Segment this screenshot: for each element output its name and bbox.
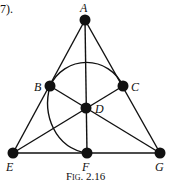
line-CE [13, 86, 123, 153]
label-B: B [34, 81, 41, 93]
label-C: C [131, 81, 139, 93]
label-A: A [80, 2, 87, 14]
point-G [155, 148, 166, 159]
point-D [81, 103, 92, 114]
point-C [118, 81, 129, 92]
point-B [45, 81, 56, 92]
point-A [80, 15, 91, 26]
line-BG [50, 86, 160, 153]
label-E: E [6, 161, 13, 173]
point-E [8, 148, 19, 159]
line-AF [85, 20, 87, 153]
figure-caption: Fig. 2.16 [66, 171, 105, 182]
label-G: G [155, 161, 164, 173]
point-F [82, 148, 93, 159]
fano-plane-diagram [0, 0, 169, 183]
label-D: D [95, 103, 104, 115]
